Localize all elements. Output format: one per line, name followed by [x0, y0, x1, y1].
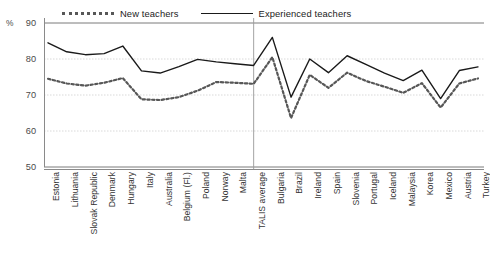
- x-label-belgium-fl: Belgium (Fl.): [182, 172, 192, 221]
- x-label-norway: Norway: [220, 172, 230, 201]
- x-label-malaysia: Malaysia: [407, 172, 417, 206]
- x-label-talis-average: TALIS average: [257, 172, 267, 229]
- x-label-italy: Italy: [145, 172, 155, 188]
- plot-area: [44, 18, 484, 170]
- legend-item-experienced-teachers: Experienced teachers: [201, 8, 352, 19]
- x-label-hungary: Hungary: [126, 172, 136, 205]
- x-label-spain: Spain: [332, 172, 342, 194]
- x-label-turkey: Turkey: [481, 172, 490, 198]
- x-label-bulgaria: Bulgaria: [276, 172, 286, 204]
- x-label-lithuania: Lithuania: [70, 172, 80, 207]
- x-label-portugal: Portugal: [369, 172, 379, 204]
- chart-svg: [44, 18, 484, 170]
- dashed-line-icon: [62, 12, 114, 15]
- chart-figure: New teachers Experienced teachers % 90 8…: [0, 0, 490, 259]
- y-axis-unit-label: %: [6, 18, 13, 28]
- x-label-poland: Poland: [201, 172, 211, 199]
- x-label-slovak-republic: Slovak Republic: [89, 172, 99, 234]
- x-label-malta: Malta: [238, 172, 248, 193]
- legend-label-new-teachers: New teachers: [120, 8, 179, 19]
- x-label-iceland: Iceland: [388, 172, 398, 200]
- legend-item-new-teachers: New teachers: [62, 8, 179, 19]
- x-label-denmark: Denmark: [107, 172, 117, 207]
- x-label-brazil: Brazil: [294, 172, 304, 194]
- solid-line-icon: [201, 13, 253, 14]
- x-label-australia: Australia: [164, 172, 174, 206]
- y-tick-50: 50: [26, 162, 36, 172]
- x-label-austria: Austria: [463, 172, 473, 199]
- y-tick-60: 60: [26, 126, 36, 136]
- x-label-korea: Korea: [425, 172, 435, 195]
- y-tick-70: 70: [26, 90, 36, 100]
- x-axis-labels: EstoniaLithuaniaSlovak RepublicDenmarkHu…: [44, 170, 484, 259]
- x-label-ireland: Ireland: [313, 172, 323, 199]
- y-tick-80: 80: [26, 54, 36, 64]
- x-label-mexico: Mexico: [444, 172, 454, 200]
- legend-label-experienced-teachers: Experienced teachers: [259, 8, 352, 19]
- x-label-estonia: Estonia: [51, 172, 61, 201]
- y-tick-90: 90: [26, 18, 36, 28]
- series-line-new-teachers: [48, 57, 478, 118]
- y-axis: % 90 80 70 60 50: [0, 0, 44, 259]
- series-line-experienced-teachers: [48, 37, 478, 98]
- x-label-slovenia: Slovenia: [351, 172, 361, 205]
